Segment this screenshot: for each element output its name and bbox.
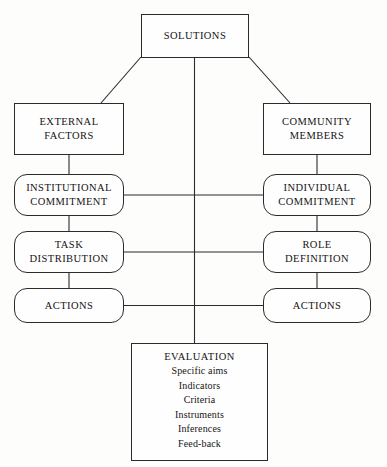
node-role-definition: ROLE DEFINITION	[263, 231, 371, 273]
node-evaluation: EVALUATION Specific aims Indicators Crit…	[131, 343, 268, 461]
node-evaluation-item-instruments: Instruments	[175, 408, 224, 423]
node-institutional-commitment-line-2: COMMITMENT	[30, 195, 107, 209]
node-actions-right-line-1: ACTIONS	[293, 299, 342, 313]
node-external-factors-line-1: EXTERNAL	[39, 115, 98, 129]
node-evaluation-item-specific-aims: Specific aims	[171, 364, 227, 379]
node-evaluation-title: EVALUATION	[164, 351, 235, 362]
node-individual-commitment: INDIVIDUAL COMMITMENT	[263, 174, 371, 216]
node-institutional-commitment-line-1: INSTITUTIONAL	[26, 181, 112, 195]
node-institutional-commitment: INSTITUTIONAL COMMITMENT	[14, 174, 124, 216]
connector-solutions-community	[249, 57, 290, 103]
node-external-factors-line-2: FACTORS	[44, 129, 93, 143]
node-evaluation-item-indicators: Indicators	[179, 379, 221, 394]
node-task-distribution-line-1: TASK	[55, 238, 83, 252]
node-actions-left: ACTIONS	[14, 288, 124, 323]
flowchart-diagram: SOLUTIONS EXTERNAL FACTORS COMMUNITY MEM…	[0, 0, 387, 467]
node-individual-commitment-line-1: INDIVIDUAL	[284, 181, 351, 195]
node-task-distribution: TASK DISTRIBUTION	[14, 231, 124, 273]
node-evaluation-item-inferences: Inferences	[178, 422, 221, 437]
connector-solutions-external	[101, 57, 141, 103]
node-community-members-line-1: COMMUNITY	[282, 115, 352, 129]
node-actions-right: ACTIONS	[263, 288, 371, 323]
node-task-distribution-line-2: DISTRIBUTION	[30, 252, 109, 266]
node-community-members: COMMUNITY MEMBERS	[263, 103, 371, 155]
node-role-definition-line-2: DEFINITION	[285, 252, 349, 266]
node-individual-commitment-line-2: COMMITMENT	[278, 195, 355, 209]
node-evaluation-item-criteria: Criteria	[184, 393, 216, 408]
node-community-members-line-2: MEMBERS	[290, 129, 345, 143]
node-solutions-line-1: SOLUTIONS	[164, 29, 226, 43]
node-evaluation-item-feed-back: Feed-back	[178, 437, 221, 452]
node-solutions: SOLUTIONS	[141, 14, 249, 58]
node-external-factors: EXTERNAL FACTORS	[14, 103, 124, 155]
node-actions-left-line-1: ACTIONS	[45, 299, 94, 313]
node-role-definition-line-1: ROLE	[302, 238, 331, 252]
